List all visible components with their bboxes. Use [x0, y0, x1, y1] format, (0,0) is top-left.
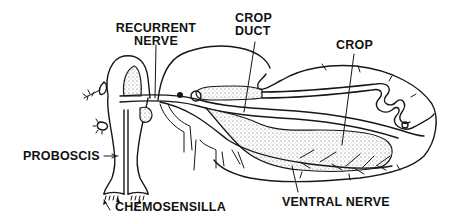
crop-duct: [177, 84, 434, 129]
proboscis-label: PROBOSCIS: [23, 150, 100, 163]
crop-duct-label: CROP DUCT: [235, 12, 272, 38]
gut-tube: [120, 95, 424, 172]
recurrent-nerve-label: RECURRENT NERVE: [115, 22, 197, 48]
crop-duct-label-line2: DUCT: [235, 25, 272, 38]
crop-anatomy-diagram: RECURRENT NERVE CROP DUCT CROP PROBOSCIS…: [0, 0, 462, 223]
chemosensilla-label: CHEMOSENSILLA: [115, 201, 226, 214]
crop-label: CROP: [336, 39, 373, 52]
recurrent-nerve-label-line2: NERVE: [115, 35, 197, 48]
ventral-nerve-label: VENTRAL NERVE: [282, 196, 390, 209]
recurrent-nerve-leader: [155, 45, 156, 98]
proboscis: [83, 82, 152, 200]
anatomy-drawing: [0, 0, 462, 223]
